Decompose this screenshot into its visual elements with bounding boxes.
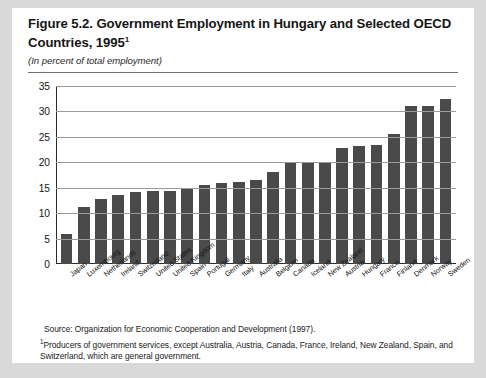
bar-slot (144, 86, 161, 264)
bar (250, 180, 262, 264)
figure-panel: Figure 5.2. Government Employment in Hun… (12, 8, 474, 363)
plot-region (56, 86, 456, 264)
bar-slot (299, 86, 316, 264)
x-label-slot: Belgium (265, 266, 282, 318)
gridline (56, 162, 456, 163)
x-label-slot: France (368, 266, 385, 318)
x-label-slot: Australia (247, 266, 264, 318)
footnote: 1Producers of government services, excep… (40, 336, 458, 363)
bar-slot (247, 86, 264, 264)
bar-slot (230, 86, 247, 264)
bar (405, 106, 417, 264)
bar-slot (213, 86, 230, 264)
bar-slot (282, 86, 299, 264)
y-axis-tick-label: 5 (44, 233, 50, 244)
bar-slot (75, 86, 92, 264)
x-label-slot: Sweden (437, 266, 454, 318)
bar-series (56, 86, 456, 264)
bar-slot (368, 86, 385, 264)
x-label-slot: Luxembourg (75, 266, 92, 318)
gridline (56, 213, 456, 214)
bar-slot (161, 86, 178, 264)
gridline (56, 111, 456, 112)
x-label-slot: Netherlands (92, 266, 109, 318)
x-label-slot: Ireland (110, 266, 127, 318)
bar-slot (58, 86, 75, 264)
bar (336, 148, 348, 264)
source-note: Source: Organization for Economic Cooper… (40, 324, 458, 336)
x-label-slot: Portugal (196, 266, 213, 318)
figure-notes: Source: Organization for Economic Cooper… (40, 324, 458, 362)
gridline (56, 239, 456, 240)
y-axis-tick-label: 10 (39, 208, 50, 219)
gridline (56, 137, 456, 138)
x-label-slot: Italy (230, 266, 247, 318)
x-label-slot: Denmark (402, 266, 419, 318)
x-label-slot: Spain (179, 266, 196, 318)
bar (78, 207, 90, 264)
x-label-slot: United States (144, 266, 161, 318)
figure-title-footnote-marker: 1 (125, 35, 129, 44)
header-divider (28, 72, 458, 73)
y-axis-tick-label: 35 (39, 81, 50, 92)
bar-slot (420, 86, 437, 264)
figure-header: Figure 5.2. Government Employment in Hun… (28, 16, 460, 66)
y-axis-tick-label: 25 (39, 131, 50, 142)
bar-slot (127, 86, 144, 264)
bar (422, 106, 434, 264)
figure-subtitle: (In percent of total employment) (28, 55, 460, 66)
x-label-slot: Switzerland (127, 266, 144, 318)
bar-slot (334, 86, 351, 264)
bar-slot (385, 86, 402, 264)
bar-slot (316, 86, 333, 264)
bar-slot (402, 86, 419, 264)
x-label-slot: Norway (420, 266, 437, 318)
bar-slot (196, 86, 213, 264)
x-label-slot: Finland (385, 266, 402, 318)
gridline (56, 86, 456, 87)
bar-slot (92, 86, 109, 264)
footnote-text: Producers of government services, except… (40, 339, 453, 361)
bar-slot (437, 86, 454, 264)
x-axis-labels: JapanLuxembourgNetherlandsIrelandSwitzer… (56, 266, 456, 318)
figure-title: Figure 5.2. Government Employment in Hun… (28, 16, 460, 51)
bar (267, 172, 279, 264)
figure-title-line2: Countries, 1995 (28, 35, 125, 50)
y-axis: 05101520253035 (28, 86, 54, 264)
x-label-slot: New Zealand (316, 266, 333, 318)
bar-slot (265, 86, 282, 264)
x-label-slot: Austria (334, 266, 351, 318)
y-axis-tick-label: 0 (44, 259, 50, 270)
x-label-slot: Japan (58, 266, 75, 318)
bar-slot (351, 86, 368, 264)
x-label-slot: Hungary (351, 266, 368, 318)
x-label-slot: United Kingdom (161, 266, 178, 318)
bar-slot (110, 86, 127, 264)
figure-title-line1: Figure 5.2. Government Employment in Hun… (28, 16, 451, 31)
y-axis-tick-label: 30 (39, 106, 50, 117)
bar (388, 134, 400, 264)
x-label-slot: Germany (213, 266, 230, 318)
x-label-slot: Canada (282, 266, 299, 318)
y-axis-tick-label: 15 (39, 182, 50, 193)
gridline (56, 188, 456, 189)
bar (233, 182, 245, 264)
x-label-slot: Iceland (299, 266, 316, 318)
bar-slot (179, 86, 196, 264)
y-axis-tick-label: 20 (39, 157, 50, 168)
bar (216, 183, 228, 264)
chart-area: 05101520253035 JapanLuxembourgNetherland… (28, 86, 458, 318)
bar (147, 191, 159, 264)
